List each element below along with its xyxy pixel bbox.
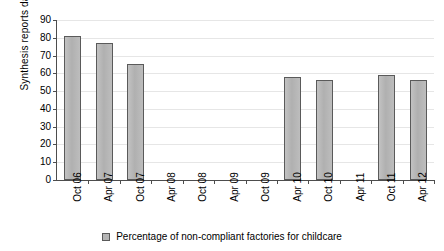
x-axis-tick-label: Oct 11 [386,173,397,202]
x-axis-tick-label: Apr 09 [229,172,240,201]
x-label-slot: Oct 06 [56,185,87,233]
y-axis-tick-label: 70 [21,51,57,61]
x-label-slot: Apr 09 [213,185,244,233]
y-axis-tick-label: 80 [21,33,57,43]
chart-legend: Percentage of non-compliant factories fo… [0,231,444,242]
bar-slot [371,20,402,180]
y-axis-tick-label: 40 [21,104,57,114]
bar-slot [308,20,339,180]
bar-chart: Synthesis reports dates 9080706050403020… [0,0,444,251]
x-tick-mark [403,180,404,184]
x-axis-tick-label: Oct 07 [135,172,146,201]
x-axis-tick-label: Oct 10 [323,172,334,201]
bar-slot [183,20,214,180]
x-label-slot: Apr 12 [402,185,433,233]
bar[interactable] [127,64,144,180]
y-axis-tick-label: 30 [21,122,57,132]
bar[interactable] [410,80,427,180]
x-label-slot: Apr 07 [87,185,118,233]
bar-slot [88,20,119,180]
y-axis-tick-label: 60 [21,68,57,78]
x-tick-mark [88,180,89,184]
x-tick-mark [214,180,215,184]
plot-area: 9080706050403020100 [56,20,434,181]
x-axis-tick-label: Oct 09 [260,172,271,201]
x-tick-mark [308,180,309,184]
x-tick-mark [183,180,184,184]
y-axis-tick-label: 0 [21,175,57,185]
y-axis-tick-label: 10 [21,157,57,167]
x-label-slot: Apr 08 [150,185,181,233]
bar-slot [57,20,88,180]
y-axis-tick-label: 20 [21,139,57,149]
x-axis-tick-label: Oct 08 [197,172,208,201]
x-tick-mark [371,180,372,184]
x-tick-mark [277,180,278,184]
bar[interactable] [316,80,333,180]
bar-slot [214,20,245,180]
x-label-slot: Apr 11 [339,185,370,233]
bar-slot [277,20,308,180]
bar[interactable] [96,43,113,180]
bar-series [57,20,434,180]
x-axis-tick-label: Apr 08 [166,172,177,201]
x-axis-labels: Oct 06Apr 07Oct 07Apr 08Oct 08Apr 09Oct … [56,185,433,233]
bar[interactable] [284,77,301,180]
x-label-slot: Oct 08 [182,185,213,233]
bar-slot [246,20,277,180]
legend-label: Percentage of non-compliant factories fo… [116,231,342,242]
bar-slot [151,20,182,180]
x-axis-tick-label: Apr 12 [417,172,428,201]
x-label-slot: Oct 09 [245,185,276,233]
y-axis-tick-label: 90 [21,15,57,25]
x-label-slot: Oct 07 [119,185,150,233]
x-tick-mark [151,180,152,184]
x-axis-tick-label: Oct 06 [72,172,83,201]
x-tick-mark [340,180,341,184]
bar[interactable] [64,36,81,180]
x-label-slot: Oct 11 [370,185,401,233]
x-axis-tick-label: Apr 11 [355,173,366,202]
bar[interactable] [378,75,395,180]
x-label-slot: Apr 10 [276,185,307,233]
legend-swatch-icon [102,233,110,241]
x-label-slot: Oct 10 [307,185,338,233]
bar-slot [340,20,371,180]
bar-slot [403,20,434,180]
x-tick-mark [434,180,435,184]
x-axis-tick-label: Apr 07 [103,172,114,201]
bar-slot [120,20,151,180]
x-tick-mark [246,180,247,184]
x-tick-mark [120,180,121,184]
y-axis-tick-label: 50 [21,86,57,96]
x-axis-tick-label: Apr 10 [292,172,303,201]
